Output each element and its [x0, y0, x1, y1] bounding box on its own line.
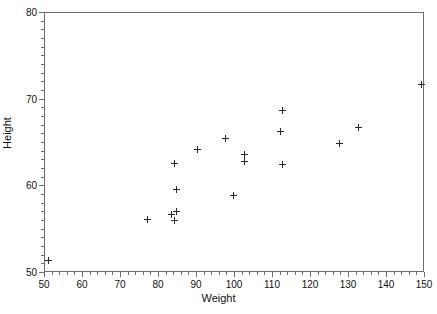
y-minor-tick	[41, 21, 44, 22]
x-major-tick	[120, 272, 121, 277]
data-point	[279, 161, 286, 168]
y-minor-tick	[41, 255, 44, 256]
x-minor-tick	[280, 272, 281, 275]
y-minor-tick	[41, 229, 44, 230]
y-minor-tick	[41, 133, 44, 134]
y-minor-tick	[41, 90, 44, 91]
data-point	[45, 257, 52, 264]
y-minor-tick	[41, 220, 44, 221]
data-point	[418, 81, 425, 88]
x-minor-tick	[264, 272, 265, 275]
x-minor-tick	[226, 272, 227, 275]
data-point	[230, 192, 237, 199]
data-point	[355, 124, 362, 131]
x-minor-tick	[302, 272, 303, 275]
y-tick-label: 60	[12, 180, 37, 191]
data-point	[173, 208, 180, 215]
x-minor-tick	[409, 272, 410, 275]
x-minor-tick	[181, 272, 182, 275]
x-minor-tick	[52, 272, 53, 275]
y-major-tick	[39, 99, 44, 100]
y-minor-tick	[41, 73, 44, 74]
y-minor-tick	[41, 81, 44, 82]
y-minor-tick	[41, 246, 44, 247]
y-minor-tick	[41, 29, 44, 30]
x-minor-tick	[74, 272, 75, 275]
x-minor-tick	[242, 272, 243, 275]
x-minor-tick	[340, 272, 341, 275]
x-minor-tick	[59, 272, 60, 275]
x-major-tick	[272, 272, 273, 277]
x-tick-label: 90	[190, 279, 201, 290]
x-major-tick	[424, 272, 425, 277]
y-minor-tick	[41, 151, 44, 152]
x-tick-label: 110	[264, 279, 280, 290]
x-minor-tick	[143, 272, 144, 275]
y-minor-tick	[41, 194, 44, 195]
x-minor-tick	[97, 272, 98, 275]
y-axis-label: Height	[1, 98, 13, 168]
y-minor-tick	[41, 116, 44, 117]
x-minor-tick	[378, 272, 379, 275]
data-point	[171, 160, 178, 167]
data-point	[173, 186, 180, 193]
data-point	[277, 128, 284, 135]
y-minor-tick	[41, 168, 44, 169]
x-minor-tick	[416, 272, 417, 275]
x-minor-tick	[166, 272, 167, 275]
x-tick-label: 60	[76, 279, 87, 290]
x-minor-tick	[401, 272, 402, 275]
y-major-tick	[39, 185, 44, 186]
x-tick-label: 70	[114, 279, 125, 290]
y-minor-tick	[41, 211, 44, 212]
y-minor-tick	[41, 38, 44, 39]
plot-frame	[44, 12, 424, 272]
x-minor-tick	[295, 272, 296, 275]
x-minor-tick	[356, 272, 357, 275]
data-point	[222, 135, 229, 142]
x-major-tick	[310, 272, 311, 277]
x-minor-tick	[325, 272, 326, 275]
x-major-tick	[158, 272, 159, 277]
x-tick-label: 50	[38, 279, 49, 290]
y-minor-tick	[41, 263, 44, 264]
data-point	[241, 158, 248, 165]
x-minor-tick	[188, 272, 189, 275]
x-minor-tick	[128, 272, 129, 275]
x-tick-label: 130	[340, 279, 357, 290]
x-minor-tick	[249, 272, 250, 275]
data-point	[336, 140, 343, 147]
x-tick-label: 120	[302, 279, 319, 290]
y-tick-label: 50	[12, 267, 37, 278]
data-point	[171, 217, 178, 224]
y-minor-tick	[41, 203, 44, 204]
x-major-tick	[234, 272, 235, 277]
x-major-tick	[348, 272, 349, 277]
x-minor-tick	[363, 272, 364, 275]
y-minor-tick	[41, 177, 44, 178]
x-minor-tick	[150, 272, 151, 275]
x-minor-tick	[112, 272, 113, 275]
x-minor-tick	[371, 272, 372, 275]
y-minor-tick	[41, 47, 44, 48]
x-minor-tick	[135, 272, 136, 275]
x-minor-tick	[211, 272, 212, 275]
x-tick-label: 100	[226, 279, 243, 290]
x-minor-tick	[318, 272, 319, 275]
x-tick-label: 150	[416, 279, 433, 290]
x-minor-tick	[394, 272, 395, 275]
data-point	[279, 107, 286, 114]
x-axis-label: Weight	[0, 292, 437, 304]
y-major-tick	[39, 272, 44, 273]
x-major-tick	[44, 272, 45, 277]
y-tick-label: 80	[12, 7, 37, 18]
scatter-plot: 506070809010011012013014015050607080 Wei…	[0, 0, 437, 314]
x-major-tick	[82, 272, 83, 277]
y-minor-tick	[41, 55, 44, 56]
x-major-tick	[196, 272, 197, 277]
x-minor-tick	[219, 272, 220, 275]
x-minor-tick	[333, 272, 334, 275]
data-point	[144, 216, 151, 223]
y-minor-tick	[41, 64, 44, 65]
x-minor-tick	[257, 272, 258, 275]
